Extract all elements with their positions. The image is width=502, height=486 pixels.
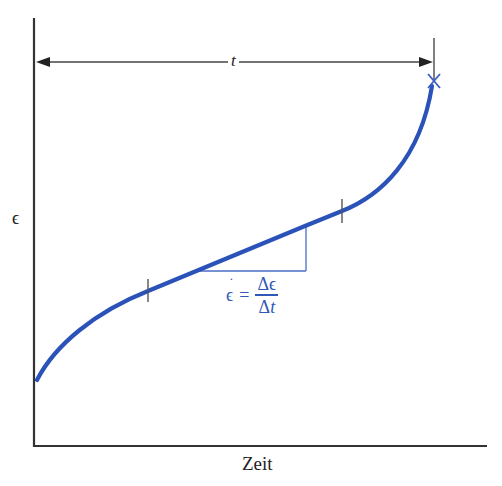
formula-delta: Δ [259, 297, 271, 317]
arrowhead-left-icon [36, 57, 50, 67]
formula-time-var: t [270, 297, 275, 317]
diagram-canvas [0, 0, 502, 486]
strain-rate-formula: ˙ ϵ = Δϵ Δt [226, 274, 278, 318]
time-span-label: t [228, 51, 239, 71]
creep-curve [37, 86, 432, 380]
formula-lhs: ˙ ϵ [226, 285, 233, 306]
formula-numerator: Δϵ [255, 274, 278, 294]
creep-curve-diagram: t ϵ Zeit ˙ ϵ = Δϵ Δt [0, 0, 502, 486]
y-axis-label: ϵ [12, 208, 19, 229]
formula-equals: = [239, 285, 249, 306]
arrowhead-right-icon [419, 57, 433, 67]
formula-dot: ˙ [229, 276, 234, 292]
x-axis-label: Zeit [242, 453, 273, 475]
formula-denominator: Δt [257, 296, 278, 318]
formula-fraction: Δϵ Δt [255, 274, 278, 318]
